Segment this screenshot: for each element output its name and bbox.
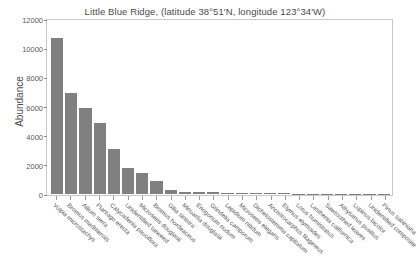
y-axis-label: Abundance [14,52,25,152]
bar-slot [306,21,320,194]
bar-slot [50,21,64,194]
x-label-slot: Lasthenia californica [306,201,320,275]
y-tick-label: 10000 [22,45,47,54]
bar [236,193,248,194]
x-label-slot: Bromus madritensis [63,201,77,275]
bar [264,193,276,194]
x-axis-labels: Vulpia microstachysBromus madritensisAll… [47,201,392,275]
bar [250,193,262,194]
x-label-slot: Gilia sinistra [163,201,177,275]
bar [221,193,233,194]
bar [65,93,77,194]
x-label-slot: Lupinus bicolor [349,201,363,275]
bar [79,108,91,195]
bar-slot [64,21,78,194]
bar [193,192,205,194]
bar [122,168,134,194]
x-label-slot: Allium serra [78,201,92,275]
bar-slot [249,21,263,194]
chart-title: Little Blue Ridge, (latitude 38°51′N, lo… [0,6,410,17]
x-label-slot: Unidentified composite [364,201,378,275]
bar-slot [121,21,135,194]
bar [165,190,177,194]
bar [292,194,304,195]
x-label-slot: Grindelia camporum [206,201,220,275]
bar-slot [135,21,149,194]
bar-slot [235,21,249,194]
bar-slot [348,21,362,194]
bar [179,192,191,194]
x-label-slot: Dichelostemma capitatum [249,201,263,275]
bar-slot [178,21,192,194]
bar-slot [334,21,348,194]
bar [150,181,162,194]
bar-slot [206,21,220,194]
x-label-slot: Lotus humistratus [292,201,306,275]
bar [94,123,106,194]
x-label-slot: Microseris elegans [235,201,249,275]
bar-slot [107,21,121,194]
bar-slot [78,21,92,194]
bar-slot [377,21,391,194]
bar-slot [149,21,163,194]
y-tick-label: 2000 [26,161,47,170]
y-tick-label: 8000 [26,74,47,83]
plot-area: 020004000600080001000012000 [46,19,393,196]
bar-slot [263,21,277,194]
bar-slot [277,21,291,194]
y-tick-label: 6000 [26,103,47,112]
bar-slot [362,21,376,194]
bar [51,38,63,194]
bar [278,193,290,194]
x-label-slot: Minuartia douglasii [178,201,192,275]
x-label-slot: Bromus hordeaceus [149,201,163,275]
x-label-slot: Unidentified tarweed [120,201,134,275]
bar-slot [93,21,107,194]
y-tick-label: 0 [39,191,47,200]
x-label-slot: Vulpia microstachys [49,201,63,275]
x-label-slot: Athysanus pusillus [335,201,349,275]
x-label-slot: Eriogonum nudum [192,201,206,275]
y-tick-label: 4000 [26,132,47,141]
bar [136,173,148,194]
x-label-slot: Plantago erecta [92,201,106,275]
bar-slot [320,21,334,194]
bar-slot [164,21,178,194]
x-label-slot: Elymus elymoides [278,201,292,275]
x-label-slot: Ancistrocarphus filagineus [263,201,277,275]
bar [108,149,120,194]
x-label-slot: Microseris douglasii [135,201,149,275]
bar-series [48,21,391,194]
x-label-slot: Calycadenia pauciflora [106,201,120,275]
bar-slot [291,21,305,194]
bar [207,192,219,194]
bar-slot [220,21,234,194]
x-label-slot: Pinus sabiniana [378,201,392,275]
x-label-slot: Lepidium nitidum [221,201,235,275]
y-tick-label: 12000 [22,16,47,25]
bar-slot [192,21,206,194]
x-label-slot: Sawtoothed leaves [321,201,335,275]
